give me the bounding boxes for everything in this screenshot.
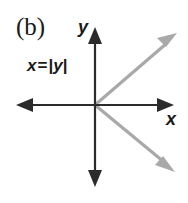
equation-label: x=|y|: [27, 57, 67, 74]
graph-ray-upper-right: [95, 33, 177, 105]
x-axis-label: x: [166, 110, 176, 128]
panel-label: (b): [16, 14, 45, 39]
equation-rhs: y: [53, 56, 62, 75]
graph-ray-lower-right: [95, 105, 175, 172]
y-axis-label: y: [78, 18, 88, 36]
figure-panel-b: (b) x=|y| y x: [0, 0, 188, 203]
equation-operator: =: [36, 56, 48, 75]
ray-arrowhead-upper-right: [157, 33, 177, 47]
equation-abs-close: |: [63, 56, 68, 75]
y-axis-arrowhead-down: [88, 170, 102, 187]
y-axis-arrowhead-up: [88, 27, 102, 44]
x-axis-arrowhead-left: [16, 98, 33, 112]
